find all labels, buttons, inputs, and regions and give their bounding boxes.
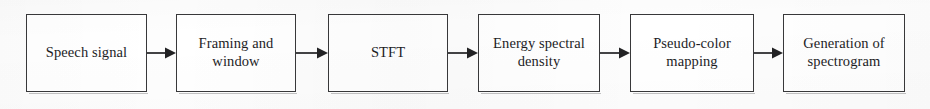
arrow-speech-signal-to-framing-and-window	[147, 47, 176, 59]
node-energy-spectral-density[interactable]: Energy spectral density	[478, 14, 600, 92]
arrow-stft-to-energy-spectral-density	[448, 47, 478, 59]
node-label: Framing and window	[195, 35, 278, 70]
node-framing-and-window[interactable]: Framing and window	[176, 14, 296, 92]
arrow-framing-and-window-to-stft	[296, 47, 328, 59]
node-label: Speech signal	[42, 44, 131, 62]
node-label: STFT	[367, 44, 409, 62]
arrow-energy-spectral-density-to-pseudo-color-mapping	[600, 47, 630, 59]
node-label: Pseudo-color mapping	[649, 35, 735, 70]
node-label: Generation of spectrogram	[799, 35, 888, 70]
node-generation-of-spectrogram[interactable]: Generation of spectrogram	[783, 14, 905, 92]
arrow-pseudo-color-mapping-to-generation-of-spectrogram	[754, 47, 783, 59]
flowchart-canvas: Speech signal Framing and window STFT En…	[0, 0, 930, 109]
node-speech-signal[interactable]: Speech signal	[26, 14, 147, 92]
node-label: Energy spectral density	[489, 35, 589, 70]
node-pseudo-color-mapping[interactable]: Pseudo-color mapping	[630, 14, 754, 92]
node-stft[interactable]: STFT	[328, 14, 448, 92]
